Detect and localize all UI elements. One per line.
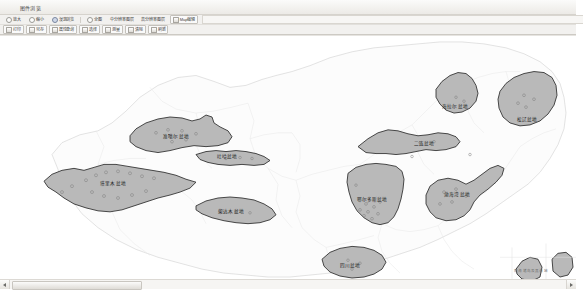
zoom-in-icon xyxy=(6,17,12,23)
scrollbar-track[interactable] xyxy=(10,280,566,289)
tool-zoom-in-label: 放大 xyxy=(13,17,21,22)
title-bar: 图件浏览 xyxy=(0,0,576,15)
scroll-right-arrow-icon[interactable] xyxy=(566,280,576,289)
tool-attribute-query-label: 属性查询 xyxy=(59,27,75,32)
horizontal-scrollbar[interactable] xyxy=(0,279,576,289)
map-canvas[interactable]: 准噶尔盆地 吐哈盆地 塔里木盆地 柴达木盆地 海拉尔盆地 二连盆地 松辽盆地 鄂… xyxy=(0,35,576,279)
basin-south-sea-a xyxy=(516,257,542,279)
map-svg xyxy=(0,36,576,279)
attribute-query-icon xyxy=(52,27,58,33)
zoom-out-icon xyxy=(29,17,35,23)
tool-refresh[interactable]: 刷新 xyxy=(148,25,169,34)
tool-fit-extent-label: 全图 xyxy=(94,17,102,22)
print-icon xyxy=(6,27,12,33)
tool-zoom-out-label: 缩小 xyxy=(36,17,44,22)
tool-measure[interactable]: 测量 xyxy=(102,25,123,34)
save-as-icon xyxy=(29,27,35,33)
clear-icon xyxy=(128,27,134,33)
tool-layer-medium[interactable]: 中分辨率图层 xyxy=(107,15,136,24)
tool-print-label: 打印 xyxy=(13,27,21,32)
tool-layer-medium-label: 中分辨率图层 xyxy=(110,17,133,22)
fit-extent-icon xyxy=(87,17,93,23)
map-stage[interactable] xyxy=(0,36,576,279)
tool-zoom-out[interactable]: 缩小 xyxy=(26,15,47,24)
tool-clear[interactable]: 清除 xyxy=(125,25,146,34)
tool-attribute-query[interactable]: 属性查询 xyxy=(49,25,78,34)
tool-clear-label: 清除 xyxy=(135,27,143,32)
scrollbar-thumb[interactable] xyxy=(12,281,142,290)
tool-save-as[interactable]: 另存 xyxy=(26,25,47,34)
tool-pan-label: 漫游浏览 xyxy=(59,17,75,22)
refresh-icon xyxy=(151,27,157,33)
basin-south-sea-b xyxy=(552,252,573,277)
pan-icon xyxy=(52,17,58,23)
window-title: 图件浏览 xyxy=(20,4,41,11)
map-edit-icon xyxy=(173,17,179,23)
tool-pan[interactable]: 漫游浏览 xyxy=(49,15,78,24)
select-icon xyxy=(82,27,88,33)
toolbar-separator xyxy=(80,17,81,23)
measure-icon xyxy=(105,27,111,33)
china-country-outline xyxy=(52,42,566,277)
tool-print[interactable]: 打印 xyxy=(3,25,24,34)
toolbar-primary-overflow xyxy=(202,15,583,24)
tool-measure-label: 测量 xyxy=(112,27,120,32)
tool-refresh-label: 刷新 xyxy=(158,27,166,32)
tool-map-edit[interactable]: Map编辑 xyxy=(170,15,198,24)
scroll-left-arrow-icon[interactable] xyxy=(0,280,10,289)
tool-zoom-in[interactable]: 放大 xyxy=(3,15,24,24)
tool-layer-high-label: 高分辨率图层 xyxy=(141,17,164,22)
tool-map-edit-label: Map编辑 xyxy=(180,17,195,22)
toolbar-secondary: 打印 另存 属性查询 选择 测量 清除 刷新 xyxy=(0,25,576,35)
tool-fit-extent[interactable]: 全图 xyxy=(84,15,105,24)
tool-select[interactable]: 选择 xyxy=(79,25,100,34)
tool-save-as-label: 另存 xyxy=(36,27,44,32)
tool-layer-high[interactable]: 高分辨率图层 xyxy=(138,15,167,24)
toolbar-primary: 放大 缩小 漫游浏览 全图 中分辨率图层 高分辨率图层 Map编辑 xyxy=(0,15,576,25)
tool-select-label: 选择 xyxy=(89,27,97,32)
